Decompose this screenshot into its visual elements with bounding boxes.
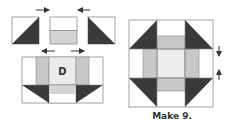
finished-block (129, 20, 213, 107)
quilt-assembly-diagram: D (0, 0, 233, 128)
assembled-unit (22, 57, 103, 103)
caption: Make 9. (150, 111, 194, 121)
unit-label-d: D (58, 66, 66, 77)
half-square-triangle-right (88, 17, 115, 44)
two-strip-square (50, 17, 77, 44)
half-square-triangle-left (12, 17, 39, 44)
